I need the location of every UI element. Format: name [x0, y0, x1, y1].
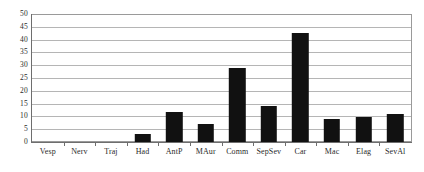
x-axis-tick [95, 143, 96, 146]
x-axis-tick [285, 143, 286, 146]
y-axis-tick-label: 25 [0, 74, 28, 82]
x-axis-tick-label: Car [285, 147, 317, 157]
y-axis-tick-label: 0 [0, 138, 28, 146]
x-axis-tick [158, 143, 159, 146]
x-axis-tick [316, 143, 317, 146]
x-axis-tick [379, 143, 380, 146]
bar-slot [253, 15, 285, 142]
bar-chart: 05101520253035404550 VespNervTrajHadAntP… [0, 0, 424, 172]
x-axis-tick-label: SevAl [379, 147, 411, 157]
y-axis-tick-label: 40 [0, 36, 28, 44]
y-axis-tick-label: 50 [0, 10, 28, 18]
bar-slot [158, 15, 190, 142]
bar-slot [32, 15, 64, 142]
bar [229, 68, 245, 142]
bar-slot [222, 15, 254, 142]
x-axis-tick [64, 143, 65, 146]
x-axis-tick-label: Traj [95, 147, 127, 157]
bar-slot [285, 15, 317, 142]
bars-layer [32, 15, 411, 142]
bar [355, 117, 371, 142]
bar-slot [379, 15, 411, 142]
x-axis-tick [253, 143, 254, 146]
x-axis-tick-label: Vesp [32, 147, 64, 157]
y-axis-tick-label: 35 [0, 48, 28, 56]
bar [324, 119, 340, 142]
x-axis-tick-labels: VespNervTrajHadAntPMAurCommSepSevCarMacE… [32, 147, 411, 161]
bar [387, 114, 403, 142]
bar [197, 124, 213, 142]
x-axis-tick-label: SepSev [253, 147, 285, 157]
x-axis-tick-label: Elag [348, 147, 380, 157]
bar [261, 106, 277, 142]
bar-slot [190, 15, 222, 142]
y-axis-tick-label: 30 [0, 61, 28, 69]
x-axis-tick [348, 143, 349, 146]
y-axis-tick-label: 5 [0, 125, 28, 133]
y-axis-tick-label: 20 [0, 87, 28, 95]
bar-slot [316, 15, 348, 142]
x-axis-tick-label: Had [127, 147, 159, 157]
bar-slot [64, 15, 96, 142]
x-axis-tick [190, 143, 191, 146]
x-axis-tick-label: AntP [158, 147, 190, 157]
x-axis-tick-label: Nerv [64, 147, 96, 157]
y-axis-tick-label: 45 [0, 23, 28, 31]
bar-slot [95, 15, 127, 142]
x-axis-tick-label: MAur [190, 147, 222, 157]
bar-slot [348, 15, 380, 142]
bar [166, 112, 182, 142]
bar-slot [127, 15, 159, 142]
y-axis-tick-label: 10 [0, 112, 28, 120]
x-axis-tick [222, 143, 223, 146]
x-axis-tick-label: Comm [222, 147, 254, 157]
bar [134, 134, 150, 142]
x-axis-tick-label: Mac [316, 147, 348, 157]
y-axis-tick-labels: 05101520253035404550 [0, 14, 28, 142]
y-axis-tick-label: 15 [0, 100, 28, 108]
bar [292, 33, 308, 142]
x-axis-tick [127, 143, 128, 146]
